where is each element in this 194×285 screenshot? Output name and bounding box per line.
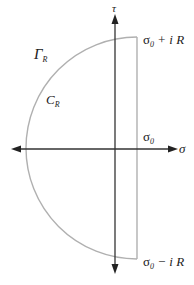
sigma-axis-label: σ [179, 142, 185, 155]
gamma-r-label: ΓR [34, 47, 47, 64]
point-bottom-label: σ0 − i R [143, 255, 184, 271]
c-r-label: CR [46, 93, 60, 109]
contour-arc [26, 37, 137, 259]
tau-axis-label: τ [112, 3, 116, 14]
tau-axis-up-arrow-icon [112, 14, 119, 24]
sigma-axis-left-arrow-icon [11, 146, 21, 153]
sigma-axis-right-arrow-icon [168, 146, 178, 153]
point-sigma0-label: σ0 [143, 130, 154, 146]
tau-axis-down-arrow-icon [112, 264, 119, 274]
point-top-label: σ0 + i R [143, 33, 184, 49]
